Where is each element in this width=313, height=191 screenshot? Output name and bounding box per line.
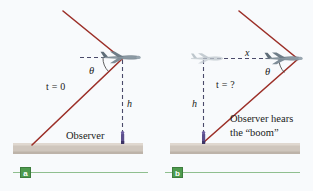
angle-arc — [103, 58, 109, 72]
caption-rule-a — [13, 172, 148, 173]
panel-badge-a: a — [20, 167, 31, 178]
ground-bar — [170, 143, 300, 154]
observer-label-a: Observer — [66, 131, 104, 142]
airplane-ghost-icon — [191, 53, 223, 63]
panel-b-caption-row: b — [165, 167, 300, 179]
airplane-icon — [101, 52, 141, 64]
angle-label-b: θ — [265, 67, 270, 78]
shock-wave-cone — [32, 11, 122, 145]
distance-label-b: x — [245, 48, 249, 58]
caption-rule-b — [165, 172, 300, 173]
angle-label-a: θ — [89, 66, 94, 77]
panel-a-graphics — [0, 0, 156, 191]
height-label-b: h — [192, 99, 197, 109]
observer-person-icon — [202, 131, 205, 144]
panel-badge-b: b — [172, 167, 183, 178]
panel-b-graphics — [157, 0, 313, 191]
height-label-a: h — [127, 99, 132, 109]
observer-hears-line1-b: Observer hears — [230, 114, 293, 125]
panel-a-caption-row: a — [13, 167, 148, 179]
observer-hears-line2-b: the “boom” — [230, 128, 279, 139]
time-label-b: t = ? — [216, 80, 235, 90]
sonic-boom-figure: t = 0 θ h Observer a — [0, 0, 313, 191]
panel-a: t = 0 θ h Observer a — [0, 0, 156, 191]
panel-b: x t = ? θ h Observer hears the “boom” b — [157, 0, 313, 191]
time-label-a: t = 0 — [46, 82, 65, 92]
airplane-icon — [265, 53, 303, 65]
observer-person-icon — [121, 131, 124, 144]
